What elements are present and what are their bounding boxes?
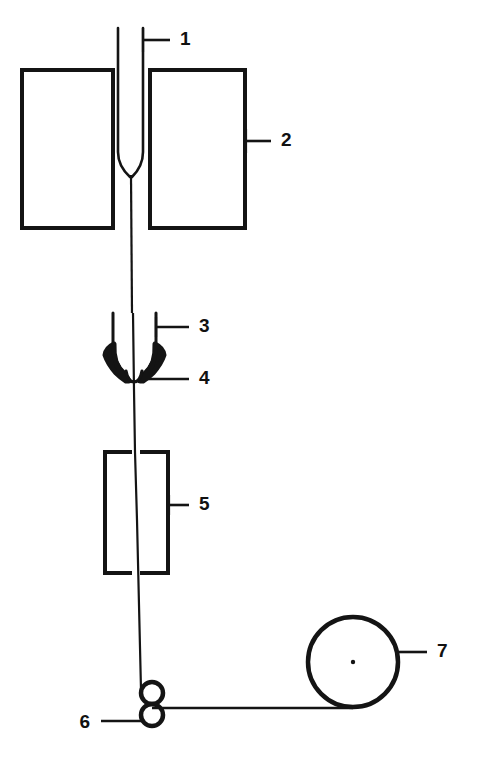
filament-upper-segment bbox=[131, 175, 132, 313]
heated-block-left-rect bbox=[22, 70, 113, 228]
callout-2-label: 2 bbox=[281, 129, 292, 150]
guide-right-wedge bbox=[140, 344, 164, 381]
filament-mid-segment bbox=[133, 313, 135, 452]
take-up-roll-hub bbox=[351, 660, 355, 664]
nip-roller-upper bbox=[141, 682, 163, 704]
callout-6: 6 bbox=[79, 711, 142, 732]
figure-root: 1 2 3 4 5 bbox=[0, 0, 477, 763]
callout-1-label: 1 bbox=[180, 28, 191, 49]
heated-block-right bbox=[150, 70, 245, 228]
capillary-right-wall bbox=[132, 28, 143, 177]
callout-5: 5 bbox=[169, 493, 210, 515]
take-up-roll bbox=[308, 617, 398, 707]
callout-6-label: 6 bbox=[79, 711, 90, 732]
chamber-right-bracket bbox=[140, 452, 168, 573]
guide-left-wedge bbox=[105, 344, 129, 381]
callout-7-label: 7 bbox=[437, 640, 448, 661]
callout-1: 1 bbox=[143, 28, 191, 52]
spinneret-capillary bbox=[118, 28, 143, 177]
callout-2: 2 bbox=[246, 129, 292, 153]
callout-3: 3 bbox=[156, 315, 210, 337]
nip-rollers bbox=[141, 682, 163, 726]
chamber-left-bracket bbox=[105, 452, 132, 573]
heated-block-right-rect bbox=[150, 70, 245, 228]
callout-4-label: 4 bbox=[199, 367, 210, 388]
heated-block-left bbox=[22, 70, 113, 228]
melt-spinning-diagram: 1 2 3 4 5 bbox=[0, 0, 477, 763]
callout-3-label: 3 bbox=[199, 315, 210, 336]
callout-7: 7 bbox=[399, 640, 448, 661]
callout-5-label: 5 bbox=[199, 493, 210, 514]
capillary-left-wall bbox=[118, 28, 130, 177]
